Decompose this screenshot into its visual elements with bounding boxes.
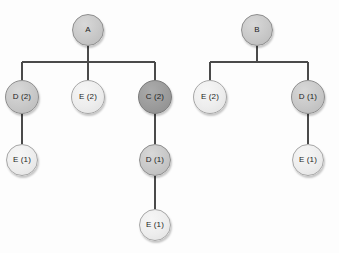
node-label: E (1) — [13, 156, 31, 164]
node-label: E (2) — [201, 93, 219, 101]
node-a-c2-d1-e1[interactable]: E (1) — [139, 209, 171, 241]
node-label: B — [254, 26, 259, 34]
node-a-c2-d1[interactable]: D (1) — [139, 144, 171, 176]
node-a-d2[interactable]: D (2) — [5, 80, 39, 114]
diagram-canvas: AD (2)E (2)C (2)E (1)D (1)E (1)BE (2)D (… — [0, 0, 339, 253]
node-label: D (1) — [299, 93, 317, 101]
node-label: C (2) — [146, 93, 164, 101]
node-b-d1[interactable]: D (1) — [291, 80, 325, 114]
node-label: D (2) — [13, 93, 31, 101]
node-b-e2[interactable]: E (2) — [193, 80, 227, 114]
node-a-root[interactable]: A — [72, 14, 104, 46]
node-a-c2[interactable]: C (2) — [138, 80, 172, 114]
node-label: A — [85, 26, 90, 34]
node-label: E (2) — [79, 93, 97, 101]
edge-layer — [0, 0, 339, 253]
node-a-e2[interactable]: E (2) — [71, 80, 105, 114]
node-a-d2-e1[interactable]: E (1) — [6, 144, 38, 176]
node-b-d1-e1[interactable]: E (1) — [292, 144, 324, 176]
node-b-root[interactable]: B — [241, 14, 273, 46]
node-label: E (1) — [146, 221, 164, 229]
node-label: E (1) — [299, 156, 317, 164]
node-label: D (1) — [146, 156, 164, 164]
